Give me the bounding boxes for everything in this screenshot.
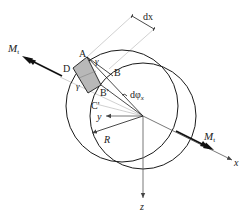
moment-right-label: Mt	[203, 130, 215, 144]
y-axis-label: y	[96, 111, 102, 122]
gamma-top-label: γ	[95, 56, 99, 66]
point-b-label: B	[114, 67, 121, 78]
point-b-prime-label: B'	[100, 87, 109, 98]
gamma-left-label: γ	[76, 81, 80, 91]
torque-arrow-left	[22, 56, 62, 76]
torsion-diagram: Mt Mt A D B B' C' γ γ dx dφx x y z R	[0, 0, 245, 217]
point-a-label: A	[79, 48, 87, 59]
x-axis	[143, 116, 232, 160]
moment-left-label: Mt	[7, 42, 19, 56]
dphi-label: dφx	[130, 89, 145, 102]
x-axis-label: x	[233, 157, 239, 168]
point-c-prime-label: C'	[91, 100, 100, 111]
dx-label: dx	[143, 11, 153, 22]
z-axis-label: z	[139, 201, 144, 212]
point-d-label: D	[63, 63, 70, 74]
radius-label: R	[103, 134, 110, 145]
